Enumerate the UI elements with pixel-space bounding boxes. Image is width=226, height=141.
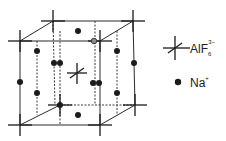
alf6-cross-icon bbox=[8, 114, 32, 136]
na-dot-icon bbox=[34, 48, 40, 54]
na-dot-icon bbox=[114, 48, 120, 54]
na-label: Na bbox=[190, 76, 206, 90]
na-dot-icon bbox=[17, 79, 23, 85]
alf6-subscript: 6 bbox=[208, 51, 212, 57]
na-dot-icon bbox=[57, 60, 63, 66]
legend-item-alf6: AlF63− bbox=[163, 36, 216, 60]
alf6-cross-icon bbox=[123, 94, 147, 116]
legend: AlF63− Na+ bbox=[163, 36, 216, 90]
alf6-cross-icon bbox=[8, 30, 32, 52]
alf6-superscript: 3− bbox=[208, 39, 215, 45]
legend-item-na: Na+ bbox=[175, 75, 210, 90]
na-dot-icon bbox=[75, 28, 81, 34]
na-dot-icon bbox=[90, 80, 96, 86]
svg-text:AlF63−: AlF63− bbox=[190, 39, 216, 57]
na-dot-icon bbox=[57, 102, 63, 108]
na-dot-icon bbox=[131, 60, 137, 66]
na-dot-icon bbox=[51, 60, 57, 66]
na-dot-hollow-icon bbox=[91, 38, 97, 44]
na-legend-dot-icon bbox=[175, 79, 181, 85]
na-dot-icon bbox=[75, 112, 81, 118]
alf6-body-center-cross-icon bbox=[67, 63, 87, 84]
svg-text:Na+: Na+ bbox=[190, 75, 209, 90]
cube-back-face bbox=[53, 21, 135, 105]
alf6-legend-cross-icon bbox=[163, 36, 190, 60]
alf6-cross-icon bbox=[88, 114, 112, 136]
na-dot-icon bbox=[114, 90, 120, 96]
na-dot-icon bbox=[96, 80, 102, 86]
na-dot-icon bbox=[34, 90, 40, 96]
alf6-cross-icon bbox=[41, 10, 65, 32]
cryolite-unit-cell-diagram: AlF63− Na+ bbox=[0, 0, 226, 141]
na-superscript: + bbox=[205, 75, 209, 81]
alf6-label: AlF bbox=[190, 42, 208, 56]
alf6-cross-icon bbox=[121, 10, 145, 32]
